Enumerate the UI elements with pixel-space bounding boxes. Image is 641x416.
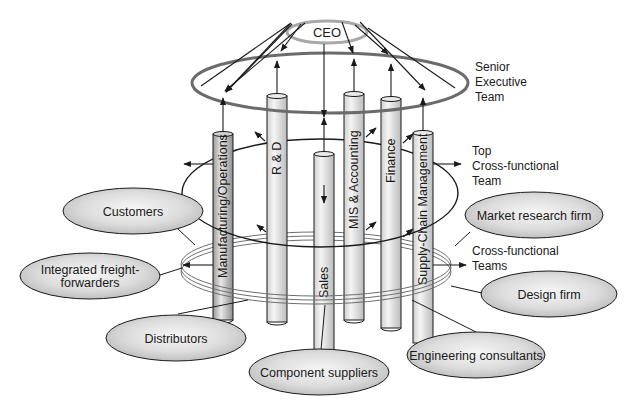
partner-distributors[interactable]: Distributors <box>106 315 246 361</box>
partner-freight[interactable]: Integrated freight- forwarders <box>20 253 160 299</box>
pillar-label-finance: Finance <box>384 138 398 183</box>
tier-label-cross-line1: Cross-functional <box>472 244 559 258</box>
partner-customers[interactable]: Customers <box>63 188 203 234</box>
partner-label-customers: Customers <box>103 205 163 219</box>
partner-design-firm[interactable]: Design firm <box>481 271 617 317</box>
partner-label-engineering: Engineering consultants <box>409 349 542 363</box>
pillar-label-supply-chain: Supply-Chain Management <box>416 133 430 285</box>
tier-label-cross: Cross-functional Teams <box>472 244 559 273</box>
tier-label-top: Top Cross-functional Team <box>472 144 559 188</box>
pillar-label-mis: MIS & Accounting <box>347 130 361 229</box>
tier-label-senior-line3: Team <box>475 90 504 104</box>
partner-label-design-firm: Design firm <box>517 288 580 302</box>
tier-label-senior-line2: Executive <box>475 75 527 89</box>
senior-executive-team-ring[interactable] <box>192 53 468 113</box>
partner-label-freight-line2: forwarders <box>60 276 119 290</box>
pillar-rd[interactable] <box>267 94 287 326</box>
tier-label-senior: Senior Executive Team <box>475 60 527 104</box>
partner-engineering[interactable]: Engineering consultants <box>407 332 545 378</box>
tier-label-senior-line1: Senior <box>475 60 510 74</box>
pillars <box>213 92 433 351</box>
partner-market-research[interactable]: Market research firm <box>465 192 603 238</box>
ceo-label: CEO <box>313 25 341 40</box>
pillar-label-sales: Sales <box>317 267 331 298</box>
pillar-label-manufacturing: Manufacturing/Operations <box>216 134 230 278</box>
tier-label-cross-line2: Teams <box>472 259 507 273</box>
tier-label-top-line2: Cross-functional <box>472 159 559 173</box>
partner-label-distributors: Distributors <box>144 332 207 346</box>
org-diagram: Manufacturing/Operations R & D Sales MIS… <box>0 0 641 416</box>
partner-label-freight-line1: Integrated freight- <box>41 263 140 277</box>
partner-label-market-research: Market research firm <box>477 209 592 223</box>
partner-label-component-suppliers: Component suppliers <box>260 366 378 380</box>
tier-label-top-line3: Team <box>472 174 501 188</box>
partner-component-suppliers[interactable]: Component suppliers <box>249 349 389 395</box>
pillar-label-rd: R & D <box>270 142 284 175</box>
tier-label-top-line1: Top <box>472 144 492 158</box>
